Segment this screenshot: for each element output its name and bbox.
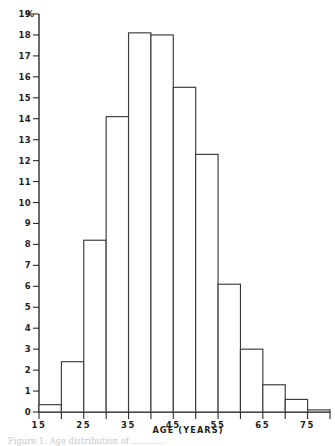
histogram-bar [61, 362, 83, 412]
x-tick-label: 15 [31, 420, 46, 430]
x-tick-label: 65 [255, 420, 270, 430]
y-tick-label: 16 [19, 72, 31, 82]
histogram-bar [196, 154, 218, 412]
y-tick-label: 2 [25, 365, 31, 375]
y-tick-label: 8 [25, 239, 31, 249]
y-tick-label: 10 [19, 198, 31, 208]
y-axis-tick-labels: 012345678910111213141516171819 [19, 9, 31, 417]
histogram-bar [84, 240, 106, 412]
histogram-bar [151, 35, 173, 412]
histogram-bar [173, 87, 195, 412]
histogram-bar [263, 385, 285, 412]
y-tick-label: 17 [19, 51, 31, 61]
histogram-bar [218, 284, 240, 412]
y-tick-label: 3 [25, 344, 31, 354]
y-tick-label: 13 [19, 135, 31, 145]
histogram-bar [129, 33, 151, 412]
y-tick-label: 7 [25, 260, 31, 270]
histogram-bar [308, 410, 330, 412]
y-tick-label: 18 [19, 30, 31, 40]
y-tick-label: 14 [19, 114, 31, 124]
x-axis-title: AGE (YEARS) [152, 425, 223, 435]
figure-caption: Figure 1. Age distribution of ..........… [8, 436, 328, 446]
y-tick-label: 6 [25, 281, 31, 291]
y-axis-title: % [25, 9, 34, 19]
y-tick-label: 12 [19, 156, 31, 166]
y-tick-label: 5 [25, 302, 31, 312]
y-axis-ticks [33, 14, 39, 412]
y-tick-label: 9 [25, 218, 31, 228]
y-tick-label: 4 [25, 323, 31, 333]
x-tick-label: 25 [76, 420, 91, 430]
y-tick-label: 15 [19, 93, 31, 103]
y-tick-label: 1 [25, 386, 31, 396]
x-tick-label: 75 [300, 420, 315, 430]
y-tick-label: 0 [25, 407, 31, 417]
x-tick-label: 35 [121, 420, 136, 430]
x-axis-ticks [39, 412, 330, 419]
histogram-bars [39, 33, 330, 412]
histogram-bar [39, 405, 61, 412]
histogram-bar [285, 399, 307, 412]
histogram-bar [106, 117, 128, 412]
histogram-bar [240, 349, 262, 412]
y-tick-label: 11 [19, 177, 31, 187]
